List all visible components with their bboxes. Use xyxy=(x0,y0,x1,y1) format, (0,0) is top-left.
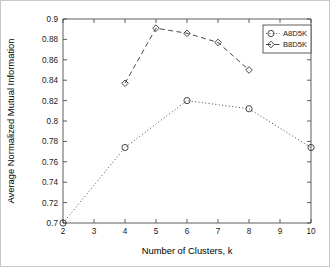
y-tick-label: 0.74 xyxy=(42,178,58,187)
y-axis-title: Average Normalized Mutual Information xyxy=(5,38,16,203)
y-tick-label: 0.88 xyxy=(42,35,58,44)
legend-label: B8D5K xyxy=(283,40,307,49)
legend-label: A8D5K xyxy=(283,29,307,38)
y-tick-label: 0.9 xyxy=(47,15,59,24)
x-tick-label: 6 xyxy=(185,227,190,236)
y-tick-label: 0.72 xyxy=(42,199,58,208)
chart-figure: 0.70.720.740.760.780.80.820.840.860.880.… xyxy=(0,0,330,267)
y-tick-label: 0.76 xyxy=(42,158,58,167)
x-tick-label: 2 xyxy=(61,227,66,236)
x-tick-label: 8 xyxy=(247,227,252,236)
x-tick-label: 7 xyxy=(216,227,221,236)
chart-canvas: 0.70.720.740.760.780.80.820.840.860.880.… xyxy=(1,1,330,267)
x-tick-label: 5 xyxy=(154,227,159,236)
series-B8D5K xyxy=(122,25,253,87)
y-tick-label: 0.84 xyxy=(42,76,58,85)
data-point-marker xyxy=(246,106,252,112)
x-axis-title: Number of Clusters, k xyxy=(142,245,233,256)
data-series-group xyxy=(60,25,314,226)
chart-legend[interactable]: A8D5KB8D5K xyxy=(263,25,311,53)
x-tick-label: 10 xyxy=(306,227,316,236)
y-tick-label: 0.78 xyxy=(42,137,58,146)
x-tick-label: 3 xyxy=(92,227,97,236)
x-tick-label: 4 xyxy=(123,227,128,236)
x-tick-label: 9 xyxy=(278,227,283,236)
y-tick-label: 0.8 xyxy=(47,117,59,126)
series-line xyxy=(63,101,311,223)
data-point-marker xyxy=(122,144,128,150)
y-tick-label: 0.82 xyxy=(42,97,58,106)
y-tick-label: 0.7 xyxy=(47,219,59,228)
y-tick-label: 0.86 xyxy=(42,56,58,65)
series-A8D5K xyxy=(60,98,314,227)
